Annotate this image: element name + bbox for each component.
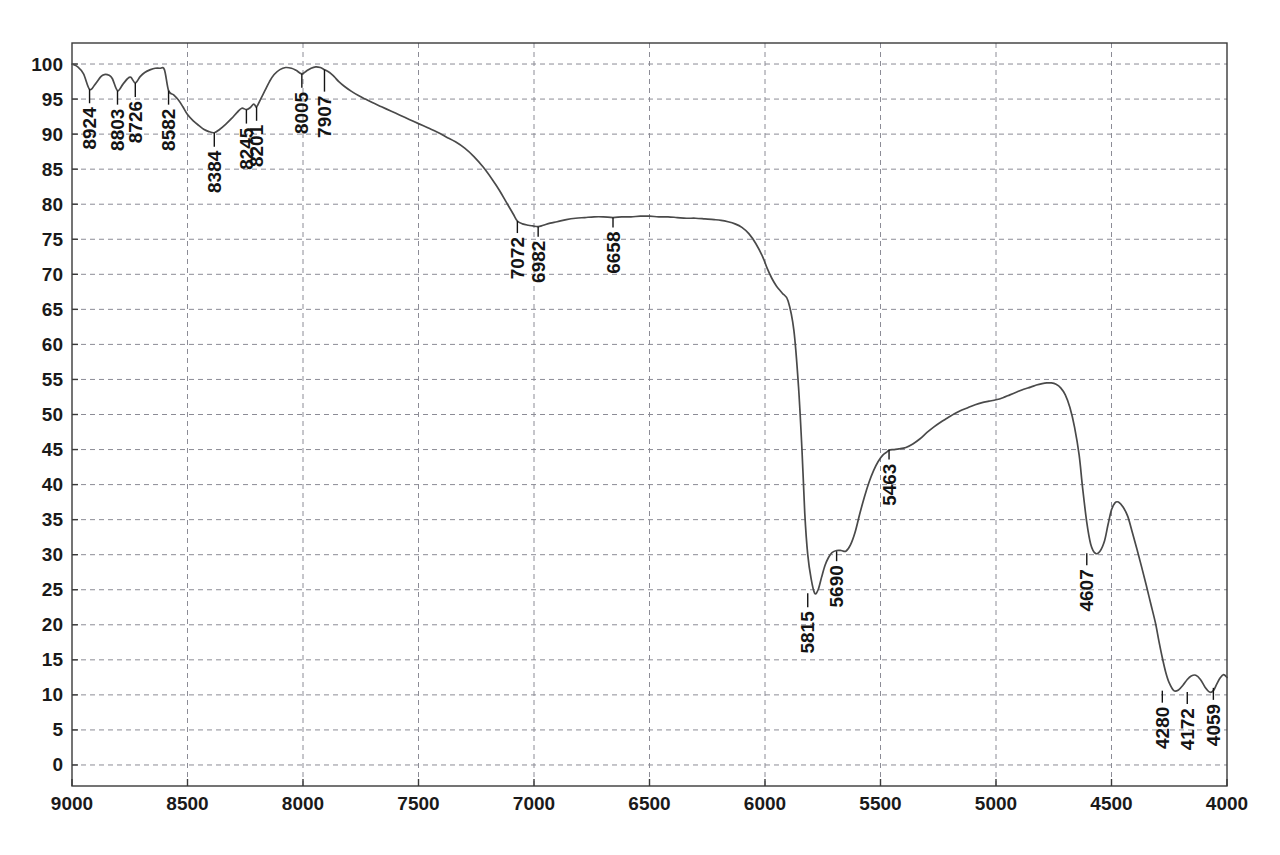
x-axis-tick-label: 8500	[166, 793, 208, 814]
y-axis-tick-label: 10	[42, 684, 63, 705]
y-axis-tick-label: 95	[42, 89, 64, 110]
peak-label: 8924	[79, 107, 100, 150]
y-axis-tick-label: 5	[52, 719, 63, 740]
peak-label: 8726	[125, 101, 146, 143]
y-axis-tick-label: 15	[42, 649, 64, 670]
y-axis-tick-label: 0	[52, 754, 63, 775]
x-axis-tick-label: 9000	[51, 793, 93, 814]
peak-label: 4059	[1203, 704, 1224, 746]
y-axis-tick-label: 75	[42, 229, 64, 250]
peak-label: 6658	[603, 232, 624, 274]
peak-label: 6982	[528, 241, 549, 283]
x-axis-tick-label: 6500	[628, 793, 670, 814]
x-axis-tick-label: 6000	[744, 793, 786, 814]
peak-label: 7907	[314, 96, 335, 138]
y-axis-tick-label: 90	[42, 124, 63, 145]
y-axis-tick-label: 65	[42, 299, 64, 320]
x-axis-tick-label: 7500	[397, 793, 439, 814]
peak-label: 7072	[507, 237, 528, 279]
y-axis-tick-label: 30	[42, 544, 63, 565]
x-axis-tick-label: 4500	[1090, 793, 1132, 814]
peak-label: 5815	[797, 611, 818, 654]
x-axis-tick-label: 4000	[1206, 793, 1248, 814]
y-axis-tick-label: 45	[42, 439, 64, 460]
peak-label: 8005	[291, 91, 312, 134]
peak-label: 8384	[204, 150, 225, 193]
y-axis-tick-label: 40	[42, 474, 63, 495]
y-axis-tick-label: 100	[31, 54, 63, 75]
peak-label: 5463	[879, 464, 900, 506]
spectrum-chart: 0510152025303540455055606570758085909510…	[0, 0, 1280, 855]
y-axis-tick-label: 70	[42, 264, 63, 285]
peak-label: 8582	[158, 109, 179, 151]
y-axis-tick-label: 50	[42, 404, 63, 425]
chart-background	[0, 0, 1280, 855]
peak-label: 8201	[246, 124, 267, 167]
peak-label: 4607	[1076, 569, 1097, 611]
peak-label: 5690	[826, 565, 847, 607]
spectrum-plot: 0510152025303540455055606570758085909510…	[0, 0, 1280, 855]
y-axis-tick-label: 25	[42, 579, 64, 600]
y-axis-tick-label: 80	[42, 194, 63, 215]
x-axis-tick-label: 8000	[282, 793, 324, 814]
y-axis-tick-label: 60	[42, 334, 63, 355]
peak-label: 4172	[1177, 708, 1198, 750]
x-axis-tick-label: 7000	[513, 793, 555, 814]
y-axis-tick-label: 55	[42, 369, 64, 390]
x-axis-tick-label: 5000	[975, 793, 1017, 814]
y-axis-tick-label: 85	[42, 159, 64, 180]
y-axis-tick-label: 20	[42, 614, 63, 635]
x-axis-tick-label: 5500	[859, 793, 901, 814]
peak-label: 4280	[1152, 707, 1173, 749]
y-axis-tick-label: 35	[42, 509, 64, 530]
